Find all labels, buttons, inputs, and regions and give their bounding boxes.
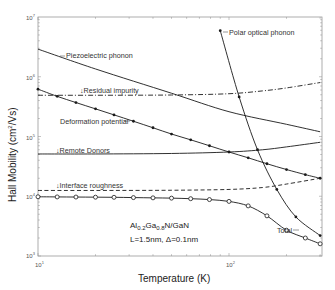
label-deformation-potential: Deformation potential	[60, 117, 129, 126]
data-marker	[275, 188, 278, 191]
y-tick-1e6: 106	[26, 73, 36, 81]
data-marker	[227, 199, 231, 203]
data-marker	[132, 120, 135, 123]
label-interface-roughness: ↓Interface roughness	[56, 181, 124, 190]
data-marker	[219, 29, 222, 32]
data-marker	[170, 133, 173, 136]
label-remote-donors: ↓Remote Donors	[56, 146, 110, 155]
data-marker	[94, 107, 97, 110]
data-marker	[170, 196, 174, 200]
data-marker	[151, 196, 155, 200]
data-marker	[238, 96, 241, 99]
material-annotation: Al0.2Ga0.8N/GaN	[130, 221, 189, 231]
data-marker	[113, 113, 116, 116]
label-residual-impurity: ↓Residual impurity	[80, 86, 139, 95]
data-marker	[247, 156, 250, 159]
x-tick-100: 102	[226, 260, 236, 268]
data-marker	[246, 204, 250, 208]
data-marker	[303, 236, 307, 240]
y-tick-1e3: 103	[26, 251, 36, 259]
data-marker	[189, 138, 192, 141]
label-total: Total	[277, 226, 293, 235]
data-marker	[285, 168, 288, 171]
label-piezoelectric: Piezoelectric phonon	[66, 51, 133, 60]
data-marker	[56, 95, 59, 98]
data-marker	[207, 198, 211, 202]
data-marker	[74, 195, 78, 199]
data-marker	[319, 234, 322, 237]
data-marker	[112, 195, 116, 199]
data-marker	[152, 126, 155, 129]
curve-deformation-potential	[38, 89, 320, 178]
data-marker	[304, 173, 307, 176]
hall-mobility-chart: 107 106 105 104 103 101 102 Temperature …	[0, 0, 335, 290]
data-marker	[266, 162, 269, 165]
data-marker	[37, 88, 40, 91]
data-marker	[265, 214, 269, 218]
data-marker	[318, 242, 322, 246]
y-tick-1e5: 105	[26, 133, 36, 141]
x-tick-10: 101	[35, 260, 45, 268]
label-polar-optical: Polar optical phonon	[229, 28, 295, 37]
data-marker	[208, 144, 211, 147]
data-marker	[294, 216, 297, 219]
data-marker	[131, 196, 135, 200]
x-axis-title: Temperature (K)	[138, 273, 210, 284]
data-marker	[189, 197, 193, 201]
curves	[36, 29, 322, 246]
y-tick-1e7: 107	[26, 13, 36, 21]
data-marker	[93, 195, 97, 199]
y-axis-title: Hall Mobility (cm2/Vs)	[7, 108, 18, 202]
data-marker	[55, 195, 59, 199]
parameters-annotation: L=1.5nm, Δ=0.1nm	[130, 235, 198, 244]
data-marker	[36, 195, 40, 199]
data-marker	[256, 148, 259, 151]
y-tick-1e4: 104	[26, 192, 36, 200]
data-marker	[75, 101, 78, 104]
curve-polar-optical-phonon	[220, 31, 320, 236]
